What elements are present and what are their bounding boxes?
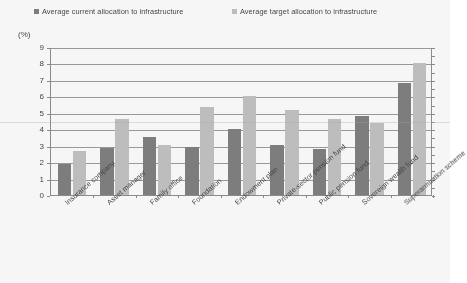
legend-item-target-allocation: Average target allocation to infrastruct… xyxy=(232,7,377,16)
legend-item-current-allocation: Average current allocation to infrastruc… xyxy=(34,7,183,16)
bar-current-allocation xyxy=(143,137,157,195)
x-axis-tick-mark xyxy=(221,195,222,198)
x-axis-tick-mark xyxy=(306,195,307,198)
bar-current-allocation xyxy=(270,145,284,195)
bar-current-allocation xyxy=(355,116,369,195)
x-axis-tick-mark xyxy=(136,195,137,198)
y-axis-tick-label: 4 xyxy=(30,126,44,134)
bar-current-allocation xyxy=(100,148,114,195)
bar-target-allocation xyxy=(73,151,87,195)
bar-current-allocation xyxy=(185,147,199,196)
y-axis-tick-label: 5 xyxy=(30,110,44,118)
y-axis-tick-label: 1 xyxy=(30,176,44,184)
y-axis-tick-label: 6 xyxy=(30,93,44,101)
x-axis-tick-mark xyxy=(348,195,349,198)
legend-swatch-target-icon xyxy=(232,9,237,14)
y-axis-tick-label: 0 xyxy=(30,192,44,200)
bar-target-allocation xyxy=(413,63,427,195)
scan-artifact xyxy=(0,122,450,123)
y-axis-tick-label: 2 xyxy=(30,159,44,167)
bar-current-allocation xyxy=(313,149,327,195)
bar-target-allocation xyxy=(200,107,214,195)
legend-label-current: Average current allocation to infrastruc… xyxy=(42,7,183,16)
bar-target-allocation xyxy=(115,119,129,195)
legend-swatch-current-icon xyxy=(34,9,39,14)
x-axis-tick-mark xyxy=(391,195,392,198)
x-axis-tick-mark xyxy=(178,195,179,198)
x-axis-tick-mark xyxy=(263,195,264,198)
legend-label-target: Average target allocation to infrastruct… xyxy=(240,7,377,16)
y-axis-tick-label: 3 xyxy=(30,143,44,151)
y-axis-tick-label: 8 xyxy=(30,60,44,68)
y-axis-tick-mark xyxy=(47,196,50,197)
x-axis-tick-mark xyxy=(433,195,434,198)
bar-current-allocation xyxy=(58,164,72,195)
y-axis-unit-label: (%) xyxy=(18,30,30,39)
bar-target-allocation xyxy=(243,96,257,195)
bar-target-allocation xyxy=(370,123,384,195)
x-axis-tick-mark xyxy=(93,195,94,198)
bar-target-allocation xyxy=(158,145,172,195)
y-axis-tick-label: 7 xyxy=(30,77,44,85)
chart-legend: Average current allocation to infrastruc… xyxy=(0,4,450,18)
y-axis-tick-label: 9 xyxy=(30,44,44,52)
bar-current-allocation xyxy=(228,129,242,195)
bar-current-allocation xyxy=(398,83,412,195)
bar-target-allocation xyxy=(328,119,342,195)
